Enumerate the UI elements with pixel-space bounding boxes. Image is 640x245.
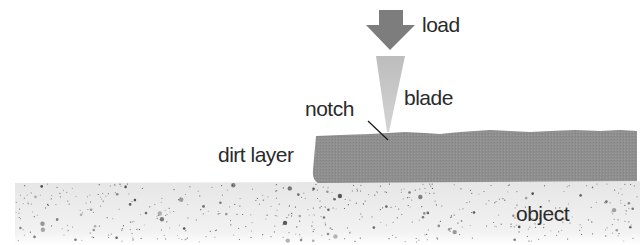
object-label: object [516, 203, 569, 224]
scraping-diagram: load blade notch dirt layer object [0, 0, 640, 245]
load-arrow-icon [366, 10, 415, 50]
dirt-layer-shape [313, 130, 637, 183]
blade-label: blade [404, 87, 453, 108]
dirt-layer-label: dirt layer [218, 144, 294, 165]
blade-shape [376, 56, 405, 132]
notch-label: notch [305, 98, 354, 119]
load-label: load [422, 14, 460, 35]
